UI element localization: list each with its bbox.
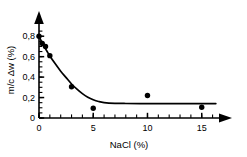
y-axis-arrow-icon (34, 11, 44, 24)
x-axis-title: NaCl (%) (110, 139, 149, 150)
y-tick-label: 0,4 (22, 72, 35, 82)
x-axis-arrow-icon (219, 113, 232, 122)
chart-plot-area: 051015 00,20,40,60,8 NaCl (%) m/c Δw (%) (0, 0, 247, 157)
y-tick-label: 0,8 (22, 31, 35, 41)
data-point (145, 93, 150, 98)
x-tick-label: 0 (36, 123, 41, 133)
y-axis-tick-labels: 00,20,40,60,8 (22, 31, 35, 123)
y-tick-label: 0,2 (22, 93, 35, 103)
data-point (47, 53, 52, 58)
decay-curve (39, 36, 216, 103)
x-axis-tick-labels: 051015 (36, 123, 206, 133)
y-axis-title: m/c Δw (%) (5, 46, 16, 95)
y-tick-label: 0 (30, 113, 35, 123)
data-point (43, 44, 48, 49)
x-tick-label: 10 (142, 123, 152, 133)
y-tick-label: 0,6 (22, 52, 35, 62)
data-point (36, 34, 41, 39)
x-tick-label: 15 (197, 123, 207, 133)
data-point (69, 84, 74, 89)
x-tick-label: 5 (91, 123, 96, 133)
chart-figure: 051015 00,20,40,60,8 NaCl (%) m/c Δw (%) (0, 0, 247, 157)
data-point (199, 105, 204, 110)
data-point (91, 106, 96, 111)
